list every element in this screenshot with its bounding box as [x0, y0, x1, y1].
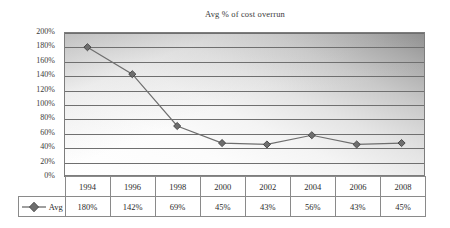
- value-cell: 45%: [380, 197, 425, 217]
- table-row-categories: 19941996199820002002200420062008: [19, 177, 426, 197]
- value-cell: 142%: [110, 197, 155, 217]
- y-axis-tick-label: 160%: [36, 57, 55, 65]
- category-cell: 1996: [110, 177, 155, 197]
- value-cell: 43%: [335, 197, 380, 217]
- category-cell: 2000: [200, 177, 245, 197]
- data-point-marker: [398, 140, 405, 147]
- y-axis-tick-label: 80%: [40, 114, 55, 122]
- category-cell: 2002: [245, 177, 290, 197]
- legend-spacer-cell: [19, 177, 66, 197]
- legend-cell: Avg: [19, 197, 66, 217]
- y-axis-tick-label: 100%: [36, 100, 55, 108]
- table-row-values: Avg 180%142%69%45%43%56%43%45%: [19, 197, 426, 217]
- data-point-marker: [263, 141, 270, 148]
- value-cell: 43%: [245, 197, 290, 217]
- y-axis-tick-label: 60%: [40, 129, 55, 137]
- value-cell: 180%: [65, 197, 110, 217]
- data-point-marker: [218, 140, 225, 147]
- category-cell: 2004: [290, 177, 335, 197]
- y-axis-tick-label: 40%: [40, 143, 55, 151]
- category-cell: 1998: [155, 177, 200, 197]
- y-axis-tick-label: 200%: [36, 28, 55, 36]
- data-point-marker: [353, 141, 360, 148]
- series-line-avg: [87, 47, 401, 144]
- data-table: 19941996199820002002200420062008 Avg 180…: [18, 176, 426, 217]
- category-cell: 1994: [65, 177, 110, 197]
- chart-title: Avg % of cost overrun: [64, 9, 426, 19]
- value-cell: 45%: [200, 197, 245, 217]
- y-axis-tick-label: 140%: [36, 71, 55, 79]
- y-axis-tick-label: 180%: [36, 42, 55, 50]
- chart-container: Avg % of cost overrun 200%180%160%140%12…: [0, 0, 450, 228]
- plot-area: [64, 32, 425, 176]
- y-axis-labels: 200%180%160%140%120%100%80%60%40%20%0%: [18, 32, 60, 176]
- data-point-marker: [308, 132, 315, 139]
- category-cell: 2006: [335, 177, 380, 197]
- y-axis-tick-label: 20%: [40, 158, 55, 166]
- value-cell: 56%: [290, 197, 335, 217]
- diamond-marker-icon: [21, 201, 47, 213]
- legend-label: Avg: [49, 202, 63, 212]
- data-point-marker: [84, 44, 91, 51]
- series-layer: [65, 33, 424, 175]
- category-cell: 2008: [380, 177, 425, 197]
- value-cell: 69%: [155, 197, 200, 217]
- y-axis-tick-label: 120%: [36, 86, 55, 94]
